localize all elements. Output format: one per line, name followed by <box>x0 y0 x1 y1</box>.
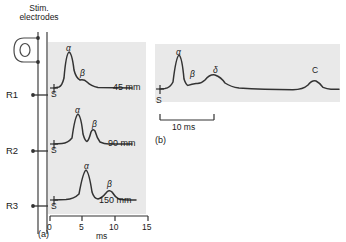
scalebar-label-b: 10 ms <box>172 123 195 132</box>
sidebar-item-r2: R2 <box>6 146 18 156</box>
peak-label-alpha-45mm: α <box>66 44 71 53</box>
stim-marker-90mm: S <box>51 146 57 155</box>
trace-90mm <box>46 100 146 158</box>
stim-marker-45mm: S <box>51 90 57 99</box>
sidebar-item-r1: R1 <box>6 90 18 100</box>
stimulator-wire <box>14 38 38 62</box>
peak-label-alpha-90mm: α <box>75 106 80 115</box>
stim-electrodes-label: Stim. electrodes <box>8 4 70 21</box>
stim-marker-b: S <box>156 96 162 105</box>
peak-label-delta-b: δ <box>213 66 218 75</box>
axis-tick-label-5: 5 <box>79 223 84 232</box>
axis-tick-label-10: 10 <box>109 223 118 232</box>
trace-45mm <box>46 44 146 102</box>
sidebar-item-r3: R3 <box>6 201 18 211</box>
panel-b-label: (b) <box>155 136 166 145</box>
stim-marker-150mm: S <box>51 202 57 211</box>
distance-label-150mm: 150 mm <box>99 196 132 205</box>
stim-label-line2: electrodes <box>19 12 58 22</box>
peak-label-beta-150mm: β <box>107 180 112 189</box>
panel-a-x-axis <box>44 212 154 224</box>
peak-label-beta-90mm: β <box>92 120 97 129</box>
figure-root: Stim. electrodes R1 R2 R3 α β S 45 <box>0 0 346 242</box>
peak-label-beta-b: β <box>190 70 195 79</box>
peak-label-alpha-b: α <box>176 48 181 57</box>
distance-label-90mm: 90 mm <box>108 139 136 148</box>
peak-label-alpha-150mm: α <box>84 162 89 171</box>
axis-tick-label-15: 15 <box>142 223 151 232</box>
stim-electrode-dot-upper <box>36 36 40 40</box>
peak-label-beta-45mm: β <box>80 69 85 78</box>
peak-label-c-b: C <box>312 66 318 75</box>
axis-unit-label-ms: ms <box>96 232 107 241</box>
panel-a-label: (a) <box>38 230 49 239</box>
stim-electrode-dot-lower <box>36 60 40 64</box>
distance-label-45mm: 45 mm <box>113 83 141 92</box>
stimulator-coil-icon <box>20 44 30 57</box>
trace-150mm <box>46 156 146 214</box>
